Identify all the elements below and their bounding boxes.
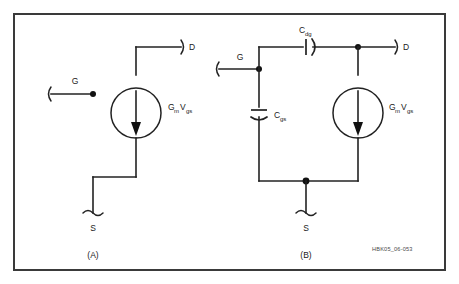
drain-label-b: D [403,42,409,52]
circuit-diagram-canvas: G D S G m V gs [0,0,459,284]
vgs-subscript-a: gs [186,108,192,114]
figure-root: G D S G m V gs [0,0,459,284]
cdg-subscript: dg [305,31,312,37]
cgs-subscript: gs [280,116,286,122]
gate-label-b: G [237,52,244,62]
gate-node-a [90,91,96,97]
source-label-b: S [303,223,309,233]
gm-subscript-a: m [174,108,179,114]
panel-b-caption: (B) [300,250,312,260]
figure-border [14,14,445,270]
gate-label-a: G [72,76,79,86]
drain-label-a: D [189,42,195,52]
gm-subscript-b: m [395,108,400,114]
vgs-subscript-b: gs [407,108,413,114]
source-label-a: S [90,223,96,233]
figure-code-label: HBK05_06-053 [372,246,413,252]
panel-a-caption: (A) [87,250,99,260]
